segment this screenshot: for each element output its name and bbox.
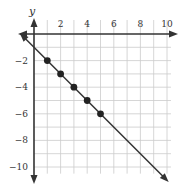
y-tick-label: −10 xyxy=(9,162,28,172)
data-point xyxy=(71,84,78,91)
coordinate-plane: y 246810−2−4−6−8−10 xyxy=(0,0,188,189)
y-tick-label: −4 xyxy=(15,82,29,92)
x-tick-label: 10 xyxy=(161,19,173,29)
data-point xyxy=(84,97,91,104)
y-tick-label: −6 xyxy=(15,109,29,119)
x-axis-arrow-icon xyxy=(169,31,178,38)
y-tick-label: −2 xyxy=(15,56,28,66)
data-point xyxy=(44,57,51,64)
x-tick-label: 4 xyxy=(84,19,90,29)
data-point xyxy=(57,71,64,78)
x-tick-label: 6 xyxy=(111,19,117,29)
x-tick-label: 8 xyxy=(138,19,144,29)
y-axis-down-arrow-icon xyxy=(31,175,38,184)
x-tick-label: 2 xyxy=(58,19,64,29)
y-tick-label: −8 xyxy=(15,135,29,145)
y-axis-label: y xyxy=(28,5,36,18)
grid-lines xyxy=(34,20,171,174)
y-axis-up-arrow-icon xyxy=(31,18,38,27)
data-point xyxy=(97,110,104,117)
data-series xyxy=(20,33,169,182)
